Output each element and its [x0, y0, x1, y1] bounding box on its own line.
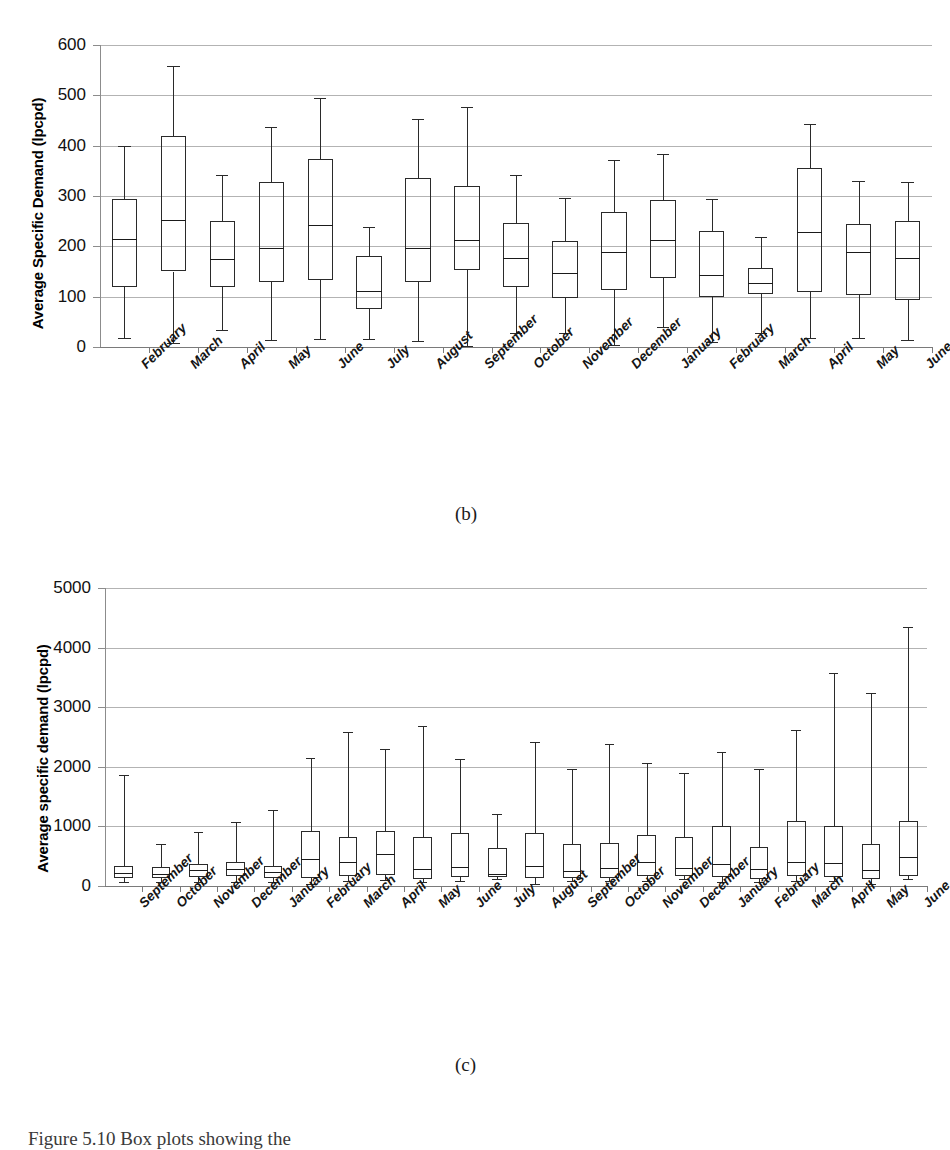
- plot-area-b: 0100200300400500600: [100, 45, 932, 347]
- x-axis-category-label: August: [432, 361, 443, 372]
- whisker-cap-upper: [559, 198, 571, 199]
- whisker-cap-upper: [755, 237, 767, 238]
- whisker-cap-upper: [567, 769, 577, 770]
- x-axis-category-label: June: [920, 900, 931, 911]
- y-tick-mark: [98, 707, 105, 708]
- whisker-cap-upper: [852, 181, 864, 182]
- median-line: [699, 275, 724, 276]
- box-iqr: [413, 837, 432, 879]
- whisker-upper: [236, 822, 237, 863]
- median-line: [114, 873, 133, 874]
- whisker-upper: [173, 66, 174, 136]
- box-iqr: [552, 241, 577, 297]
- x-axis-category-label: May: [435, 900, 446, 911]
- x-tick-mark: [329, 886, 330, 892]
- median-line: [895, 258, 920, 259]
- whisker-upper: [271, 127, 272, 183]
- whisker-upper: [348, 732, 349, 837]
- whisker-upper: [908, 627, 909, 821]
- whisker-upper: [418, 119, 419, 177]
- y-tick-mark: [98, 648, 105, 649]
- whisker-cap-upper: [530, 742, 540, 743]
- median-line: [308, 225, 333, 226]
- x-tick-mark: [142, 886, 143, 892]
- whisker-upper: [712, 199, 713, 232]
- whisker-lower: [663, 278, 664, 327]
- x-axis-category-label: March: [775, 361, 786, 372]
- x-axis-category-label: October: [530, 361, 541, 372]
- y-tick-mark: [93, 347, 100, 348]
- whisker-cap-upper: [754, 769, 764, 770]
- x-axis-category-label: January: [734, 900, 745, 911]
- x-axis-category-label: March: [360, 900, 371, 911]
- x-axis-category-label: July: [509, 900, 520, 911]
- whisker-cap-lower: [852, 338, 864, 339]
- whisker-upper: [320, 98, 321, 158]
- whisker-cap-upper: [119, 775, 129, 776]
- whisker-cap-upper: [791, 730, 801, 731]
- whisker-lower: [124, 287, 125, 338]
- whisker-upper: [565, 198, 566, 242]
- y-tick-mark: [93, 95, 100, 96]
- whisker-lower: [222, 287, 223, 331]
- whisker-cap-upper: [455, 759, 465, 760]
- whisker-cap-upper: [418, 726, 428, 727]
- whisker-upper: [761, 237, 762, 268]
- y-tick-label: 500: [16, 85, 86, 105]
- y-tick-mark: [93, 45, 100, 46]
- x-axis-category-label: November: [210, 900, 221, 911]
- gridline: [100, 146, 932, 147]
- whisker-cap-upper: [343, 732, 353, 733]
- box-iqr: [488, 848, 507, 877]
- median-line: [488, 874, 507, 875]
- whisker-upper: [124, 775, 125, 867]
- whisker-upper: [908, 182, 909, 220]
- whisker-cap-upper: [216, 175, 228, 176]
- whisker-cap-upper: [804, 124, 816, 125]
- whisker-upper: [460, 759, 461, 833]
- panel-letter-c: (c): [455, 1054, 476, 1076]
- x-axis-category-label: February: [726, 361, 737, 372]
- whisker-cap-upper: [901, 182, 913, 183]
- y-tick-mark: [98, 588, 105, 589]
- whisker-cap-lower: [314, 339, 326, 340]
- whisker-upper: [859, 181, 860, 224]
- y-tick-label: 600: [16, 35, 86, 55]
- median-line: [413, 869, 432, 870]
- whisker-lower: [810, 292, 811, 338]
- gridline: [105, 648, 927, 649]
- x-tick-mark: [254, 886, 255, 892]
- median-line: [454, 240, 479, 241]
- x-tick-mark: [740, 886, 741, 892]
- whisker-cap-upper: [194, 832, 204, 833]
- x-axis-category-label: April: [824, 361, 835, 372]
- y-tick-mark: [98, 767, 105, 768]
- box-iqr: [650, 200, 675, 279]
- x-axis-category-label: May: [285, 361, 296, 372]
- box-iqr: [748, 268, 773, 293]
- whisker-upper: [663, 154, 664, 199]
- median-line: [451, 867, 470, 868]
- x-tick-mark: [852, 886, 853, 892]
- x-axis-category-label: December: [696, 900, 707, 911]
- median-line: [899, 857, 918, 858]
- x-axis-category-label: January: [285, 900, 296, 911]
- gridline: [100, 95, 932, 96]
- panel-letter-b: (b): [455, 503, 477, 525]
- x-axis-category-label: February: [138, 361, 149, 372]
- median-line: [161, 220, 186, 221]
- x-axis-category-label: June: [472, 900, 483, 911]
- whisker-cap-upper: [167, 66, 179, 67]
- y-tick-label: 2000: [21, 757, 91, 777]
- whisker-upper: [684, 773, 685, 837]
- whisker-cap-lower: [118, 338, 130, 339]
- whisker-cap-upper: [231, 822, 241, 823]
- whisker-upper: [647, 763, 648, 835]
- y-axis-line: [105, 588, 106, 886]
- whisker-cap-lower: [119, 882, 129, 883]
- x-axis-category-label: November: [659, 900, 670, 911]
- box-iqr: [376, 831, 395, 876]
- y-tick-label: 3000: [21, 697, 91, 717]
- x-axis-category-label: October: [173, 900, 184, 911]
- y-axis-line: [100, 45, 101, 347]
